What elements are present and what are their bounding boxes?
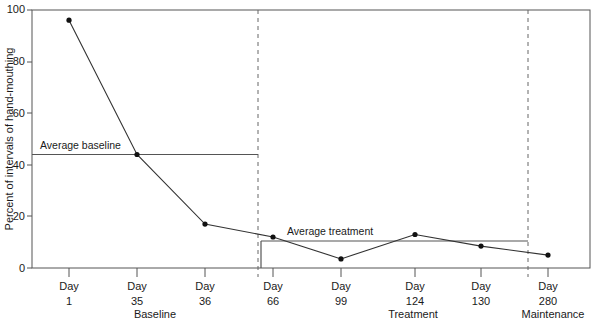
data-line [69,20,548,259]
x-tick-label-day-36-top: Day [195,280,215,292]
data-point-day-1 [66,18,71,23]
x-tick-label-day-280-top: Day [538,280,558,292]
x-tick-label-day-66-bottom: 66 [267,295,279,307]
x-tick-label-day-66-top: Day [263,280,283,292]
x-tick-label-day-35-top: Day [127,280,147,292]
x-tick-label-day-280-bottom: 280 [539,295,557,307]
data-point-day-280 [545,253,550,258]
data-point-day-130 [478,244,483,249]
data-point-day-36 [202,222,207,227]
phase-label-maintenance: Maintenance [522,308,585,320]
x-tick-label-day-36-bottom: 36 [199,295,211,307]
data-point-day-99 [338,256,343,261]
x-tick-label-day-130-bottom: 130 [472,295,490,307]
x-tick-label-day-1-top: Day [59,280,79,292]
x-tick-label-day-99-top: Day [331,280,351,292]
average-treatment-label: Average treatment [287,225,373,237]
x-tick-label-day-1-bottom: 1 [66,295,72,307]
x-tick-label-day-124-bottom: 124 [406,295,424,307]
y-tick-label-0: 0 [19,262,25,274]
x-tick-label-day-124-top: Day [405,280,425,292]
x-tick-label-day-99-bottom: 99 [335,295,347,307]
y-axis-title: Percent of intervals of hand-mouthing [3,48,15,231]
x-tick-label-day-35-bottom: 35 [131,295,143,307]
line-chart-svg: 100 80 60 40 20 0 Percent of intervals o… [0,0,594,322]
phase-label-treatment: Treatment [388,308,438,320]
data-point-day-35 [134,152,139,157]
x-axis-ticks [69,268,548,277]
data-point-day-66 [270,234,275,239]
y-tick-label-100: 100 [7,3,25,15]
data-point-day-124 [412,232,417,237]
x-tick-label-day-130-top: Day [471,280,491,292]
chart-figure: 100 80 60 40 20 0 Percent of intervals o… [0,0,594,322]
y-axis-ticks [27,10,32,268]
average-baseline-label: Average baseline [40,139,121,151]
phase-label-baseline: Baseline [134,308,176,320]
